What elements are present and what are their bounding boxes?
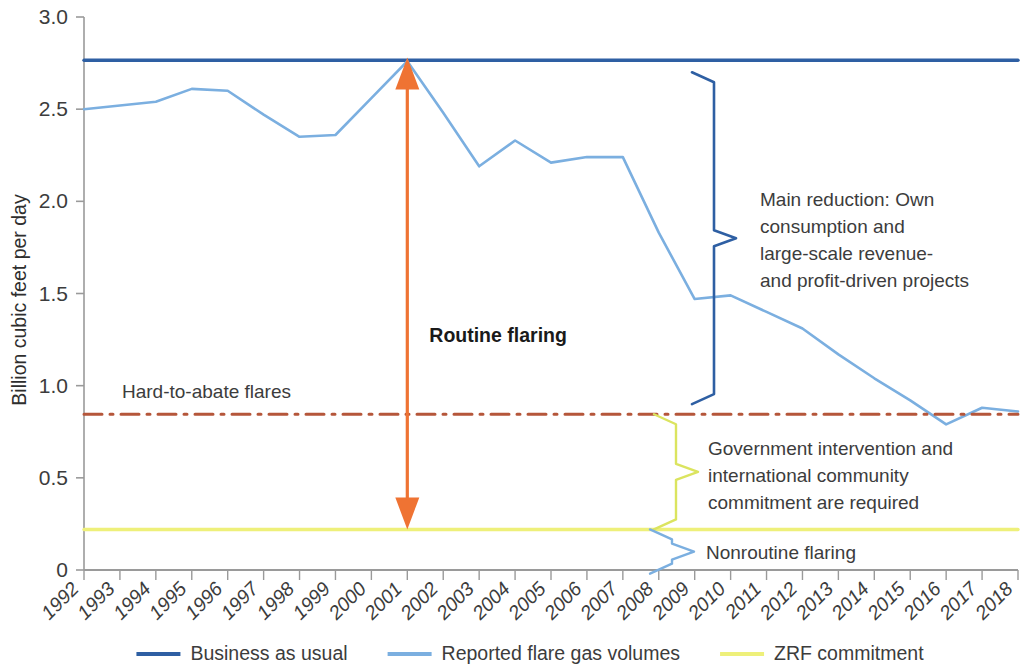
y-tick-label: 2.0 [39, 189, 68, 212]
annotation-text-layer: Routine flaringHard-to-abate flaresMain … [122, 189, 969, 563]
main-reduction-text-line: large-scale revenue- [760, 243, 933, 264]
flaring-chart: Billion cubic feet per day 00.51.01.52.0… [0, 0, 1024, 672]
annotation-layer [395, 58, 736, 574]
legend-label-2[interactable]: ZRF commitment [774, 642, 924, 664]
government-intervention-brace [654, 414, 698, 529]
x-tick-label-2004: 2004 [467, 577, 514, 624]
x-tick-label-2015: 2015 [862, 577, 909, 624]
x-tick-label-2017: 2017 [934, 576, 982, 624]
x-tick-label-2012: 2012 [754, 577, 801, 624]
x-tick-label-1999: 1999 [288, 577, 334, 623]
routine-flaring-arrowhead-down [395, 497, 419, 529]
x-tick-label-1998: 1998 [252, 577, 298, 623]
x-tick-label-2006: 2006 [539, 577, 586, 624]
hard-to-abate-flares-label: Hard-to-abate flares [122, 381, 291, 402]
x-tick-label-2013: 2013 [790, 577, 837, 624]
chart-legend: Business as usualReported flare gas volu… [136, 642, 924, 664]
y-tick-label: 1.0 [39, 374, 68, 397]
x-tick-label-2010: 2010 [682, 577, 729, 624]
government-intervention-text-line: commitment are required [708, 492, 919, 513]
nonroutine-flaring-text-line: Nonroutine flaring [706, 542, 856, 563]
y-tick-label: 1.5 [39, 282, 68, 305]
x-tick-label-1997: 1997 [216, 576, 263, 623]
x-tick-label-2005: 2005 [503, 577, 550, 624]
x-tick-label-2016: 2016 [898, 577, 945, 624]
government-intervention-text-line: international community [708, 465, 909, 486]
x-tick-label-1992: 1992 [37, 577, 83, 623]
x-tick-label-1995: 1995 [144, 577, 190, 623]
routine-flaring-label: Routine flaring [429, 324, 567, 346]
main-reduction-brace [692, 72, 736, 404]
x-tick-label-2011: 2011 [719, 577, 765, 623]
x-tick-label-2002: 2002 [395, 577, 442, 624]
chart-canvas: Billion cubic feet per day 00.51.01.52.0… [0, 0, 1024, 672]
x-tick-label-1993: 1993 [73, 577, 119, 623]
x-tick-label-2000: 2000 [323, 577, 370, 624]
x-tick-label-2007: 2007 [575, 576, 623, 624]
x-axis-ticks: 1992199319941995199619971998199920002001… [37, 570, 1018, 624]
x-tick-label-2009: 2009 [647, 577, 694, 624]
x-tick-label-2001: 2001 [359, 577, 406, 624]
x-tick-label-2018: 2018 [970, 577, 1017, 624]
government-intervention-text-line: Government intervention and [708, 438, 953, 459]
y-axis-ticks: 00.51.01.52.02.53.0 [39, 5, 84, 581]
main-reduction-text-line: and profit-driven projects [760, 270, 969, 291]
nonroutine-flaring-brace [650, 529, 694, 573]
x-tick-label-2008: 2008 [611, 577, 658, 624]
main-reduction-text-line: consumption and [760, 216, 905, 237]
x-tick-label-1994: 1994 [108, 577, 154, 623]
x-tick-label-1996: 1996 [180, 577, 226, 623]
x-tick-label-2003: 2003 [431, 577, 478, 624]
legend-label-1[interactable]: Reported flare gas volumes [442, 642, 681, 664]
y-axis-title: Billion cubic feet per day [8, 194, 30, 406]
x-tick-label-2014: 2014 [826, 577, 873, 624]
main-reduction-text-line: Main reduction: Own [760, 189, 934, 210]
y-tick-label: 2.5 [39, 97, 68, 120]
y-tick-label: 3.0 [39, 5, 68, 28]
y-axis-title-text: Billion cubic feet per day [8, 194, 30, 406]
data-series-layer [84, 60, 1018, 529]
y-tick-label: 0.5 [39, 466, 68, 489]
legend-label-0[interactable]: Business as usual [190, 642, 347, 664]
